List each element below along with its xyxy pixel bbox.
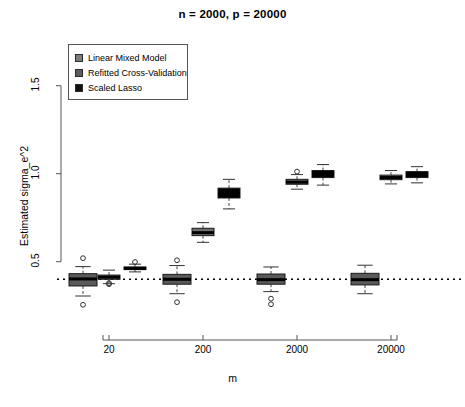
y-tick-label: 1.5 bbox=[30, 64, 41, 104]
legend-label: Refitted Cross-Validation bbox=[88, 68, 187, 78]
boxplot-figure: n = 2000, p = 20000 Estimated sigma_e^2 … bbox=[0, 0, 465, 407]
axes-layer bbox=[56, 86, 397, 340]
boxplot-refitted-cross-validation-m2000 bbox=[286, 169, 308, 189]
legend-swatch-icon bbox=[75, 54, 83, 62]
boxplot-scaled-lasso-m200 bbox=[218, 179, 240, 209]
boxplot-refitted-cross-validation-m200 bbox=[192, 223, 214, 243]
x-tick-label: 20000 bbox=[361, 344, 421, 355]
boxplot-linear-mixed-model-m2000 bbox=[257, 267, 285, 307]
x-tick-label: 200 bbox=[173, 344, 233, 355]
legend-label: Linear Mixed Model bbox=[88, 53, 167, 63]
legend: Linear Mixed ModelRefitted Cross-Validat… bbox=[68, 44, 188, 100]
boxplot-scaled-lasso-m2000 bbox=[312, 165, 334, 186]
legend-item: Linear Mixed Model bbox=[75, 50, 182, 65]
boxplot-scaled-lasso-m20000 bbox=[406, 167, 428, 183]
x-tick-label: 20 bbox=[79, 344, 139, 355]
legend-swatch-icon bbox=[75, 69, 83, 77]
legend-item: Scaled Lasso bbox=[75, 80, 182, 95]
boxplot-linear-mixed-model-m20000 bbox=[351, 265, 379, 294]
y-tick-label: 1.0 bbox=[30, 152, 41, 192]
y-tick-label: 0.5 bbox=[30, 240, 41, 280]
x-tick-label: 2000 bbox=[267, 344, 327, 355]
boxplot-refitted-cross-validation-m20 bbox=[98, 270, 120, 286]
legend-swatch-icon bbox=[75, 84, 83, 92]
boxplot-refitted-cross-validation-m20000 bbox=[380, 171, 402, 184]
legend-item: Refitted Cross-Validation bbox=[75, 65, 182, 80]
legend-label: Scaled Lasso bbox=[88, 83, 142, 93]
boxplot-scaled-lasso-m20 bbox=[124, 260, 146, 272]
boxplot-linear-mixed-model-m20 bbox=[69, 256, 97, 307]
boxplot-linear-mixed-model-m200 bbox=[163, 258, 191, 305]
boxplot-layer bbox=[69, 165, 428, 308]
